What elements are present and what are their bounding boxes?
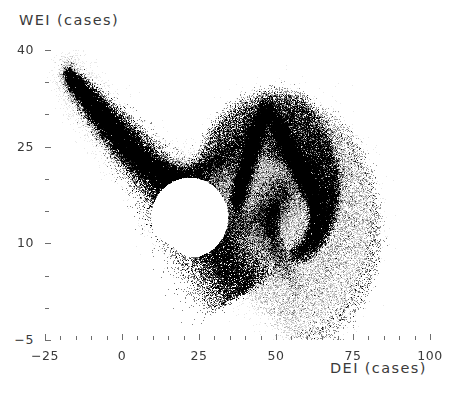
x-tick-minor — [384, 336, 385, 340]
y-tick-minor — [45, 114, 49, 115]
y-tick-major — [45, 340, 51, 341]
x-tick-major — [45, 334, 46, 340]
x-tick-major — [430, 334, 431, 340]
x-tick-minor — [230, 336, 231, 340]
x-tick-minor — [107, 336, 108, 340]
x-tick-minor — [338, 336, 339, 340]
x-tick-label: −25 — [15, 348, 75, 363]
plot-area — [45, 50, 430, 340]
y-tick-minor — [45, 308, 49, 309]
x-tick-minor — [307, 336, 308, 340]
y-tick-minor — [45, 82, 49, 83]
y-tick-major — [45, 147, 51, 148]
scatter-plot-figure: WEI (cases) DEI (cases) −5102540 −250255… — [0, 0, 449, 399]
x-tick-minor — [291, 336, 292, 340]
scatter-point-cloud — [45, 50, 430, 340]
x-tick-minor — [137, 336, 138, 340]
y-tick-minor — [45, 211, 49, 212]
x-tick-major — [199, 334, 200, 340]
x-tick-minor — [76, 336, 77, 340]
x-tick-minor — [168, 336, 169, 340]
x-tick-major — [122, 334, 123, 340]
y-tick-minor — [45, 179, 49, 180]
x-tick-major — [353, 334, 354, 340]
x-tick-label: 50 — [246, 348, 306, 363]
x-tick-minor — [60, 336, 61, 340]
x-tick-minor — [153, 336, 154, 340]
x-tick-minor — [214, 336, 215, 340]
x-tick-minor — [245, 336, 246, 340]
x-tick-minor — [399, 336, 400, 340]
y-tick-label: 10 — [0, 235, 34, 250]
x-tick-label: 0 — [92, 348, 152, 363]
x-tick-major — [276, 334, 277, 340]
y-axis-title: WEI (cases) — [19, 12, 119, 28]
y-tick-major — [45, 243, 51, 244]
point-cloud-container — [45, 50, 430, 340]
y-tick-major — [45, 50, 51, 51]
x-tick-minor — [368, 336, 369, 340]
y-tick-label: −5 — [0, 332, 34, 347]
x-tick-label: 100 — [400, 348, 449, 363]
x-tick-minor — [322, 336, 323, 340]
y-tick-minor — [45, 276, 49, 277]
y-tick-label: 25 — [0, 139, 34, 154]
x-tick-minor — [261, 336, 262, 340]
x-tick-label: 25 — [169, 348, 229, 363]
x-tick-label: 75 — [323, 348, 383, 363]
y-tick-label: 40 — [0, 42, 34, 57]
x-tick-minor — [415, 336, 416, 340]
x-tick-minor — [184, 336, 185, 340]
x-tick-minor — [91, 336, 92, 340]
